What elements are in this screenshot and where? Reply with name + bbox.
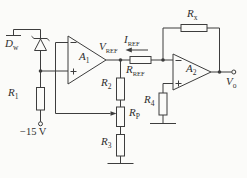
resistor-r4 <box>159 84 173 124</box>
label-r3: R3 <box>101 136 111 147</box>
label-rref: RREF <box>126 64 145 75</box>
label-r2-sub: 2 <box>108 82 112 91</box>
label-rx-main: R <box>187 7 194 19</box>
label-a2-sub: 2 <box>193 68 197 77</box>
zener-diode-icon <box>32 36 50 71</box>
circuit-schematic: Dw R1 −15 V A1 VREF IREF RREF R2 RP R3 R… <box>0 0 247 178</box>
node-dot-output <box>218 70 222 74</box>
label-vo: Vo <box>226 76 236 87</box>
resistor-r3 <box>117 135 125 164</box>
label-vo-sub: o <box>233 81 237 90</box>
label-a1-main: A <box>79 50 86 62</box>
label-iref-sub: REF <box>128 40 140 47</box>
label-rref-sub: REF <box>133 70 145 77</box>
label-dw: Dw <box>5 38 18 49</box>
label-dw-sub: w <box>13 43 18 52</box>
label-r4-sub: 4 <box>151 99 155 108</box>
terminal-vo <box>232 70 236 74</box>
label-vref-sub: REF <box>106 47 118 54</box>
resistor-r1 <box>37 71 45 122</box>
label-vref-main: V <box>99 40 106 52</box>
label-r2-main: R <box>101 76 108 88</box>
label-dw-main: D <box>5 37 13 49</box>
label-rp-main: R <box>129 106 136 118</box>
potentiometer-rp <box>117 107 125 135</box>
label-r4-main: R <box>144 93 151 105</box>
resistor-rref <box>130 57 173 64</box>
iref-current-arrow <box>126 48 149 53</box>
rp-wiper-arrow <box>111 111 117 116</box>
label-r1: R1 <box>8 87 18 98</box>
label-rx: Rx <box>187 8 197 19</box>
label-a2: A2 <box>186 63 196 74</box>
label-neg15v: −15 V <box>20 127 46 138</box>
label-r1-sub: 1 <box>15 92 19 101</box>
label-r3-sub: 3 <box>108 141 112 150</box>
schematic-canvas <box>0 0 247 178</box>
label-a1-sub: 1 <box>86 56 90 65</box>
label-a1: A1 <box>79 51 89 62</box>
label-r4: R4 <box>144 94 154 105</box>
label-iref: IREF <box>124 34 140 45</box>
ground-symbol-zener <box>6 30 21 36</box>
label-vo-main: V <box>226 75 233 87</box>
label-a2-main: A <box>186 62 193 74</box>
label-rx-sub: x <box>194 13 198 22</box>
label-r1-main: R <box>8 86 15 98</box>
label-rp: RP <box>129 107 140 118</box>
label-r2: R2 <box>101 77 111 88</box>
label-rref-main: R <box>126 63 133 75</box>
label-vref: VREF <box>99 41 118 52</box>
label-r3-main: R <box>101 135 108 147</box>
label-rp-sub: P <box>136 112 140 121</box>
resistor-r2 <box>117 60 125 107</box>
